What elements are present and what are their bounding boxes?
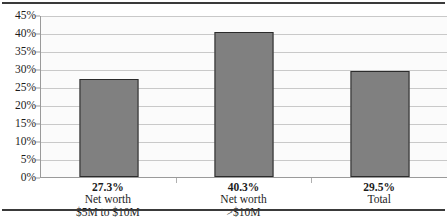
y-axis-tick-label: 30% — [0, 64, 36, 76]
bar-slot — [312, 16, 447, 177]
x-axis-labels: 27.3%Net worth$5M to $10M40.3%Net worth>… — [40, 181, 447, 217]
category-name-line: Total — [311, 193, 447, 205]
bar[interactable] — [79, 79, 138, 177]
category-name-line: Net worth — [176, 193, 312, 205]
bar-value-label: 29.5% — [311, 181, 447, 193]
x-axis-category-tick — [311, 178, 312, 183]
bottom-divider-rule — [2, 209, 445, 211]
bar-chart: 0%5%10%15%20%25%30%35%40%45% 27.3%Net wo… — [0, 8, 447, 206]
y-axis-tick-label: 25% — [0, 82, 36, 94]
y-axis-tick-label: 40% — [0, 28, 36, 40]
y-axis-tick-label: 20% — [0, 100, 36, 112]
plot-area — [40, 16, 447, 178]
x-axis-category-label: 27.3%Net worth$5M to $10M — [40, 181, 176, 218]
y-axis-tick-label: 0% — [0, 172, 36, 184]
y-axis-tick-label: 15% — [0, 118, 36, 130]
bar-slot — [41, 16, 177, 177]
bar-slot — [177, 16, 313, 177]
y-axis-tick-label: 45% — [0, 10, 36, 22]
y-axis: 0%5%10%15%20%25%30%35%40%45% — [0, 16, 36, 178]
category-name-line: $5M to $10M — [40, 206, 176, 218]
bar-value-label: 40.3% — [176, 181, 312, 193]
category-name-line: Net worth — [40, 193, 176, 205]
bar[interactable] — [351, 71, 410, 177]
top-divider-rule — [2, 2, 445, 4]
y-axis-tick-label: 35% — [0, 46, 36, 58]
bar-series — [41, 16, 447, 177]
bar-value-label: 27.3% — [40, 181, 176, 193]
x-axis-category-tick — [176, 178, 177, 183]
x-axis-category-label: 29.5%Total — [311, 181, 447, 206]
y-axis-tick-label: 10% — [0, 136, 36, 148]
category-name-line: >$10M — [176, 206, 312, 218]
bar[interactable] — [215, 32, 274, 177]
x-axis-category-label: 40.3%Net worth>$10M — [176, 181, 312, 218]
y-axis-tick-label: 5% — [0, 154, 36, 166]
